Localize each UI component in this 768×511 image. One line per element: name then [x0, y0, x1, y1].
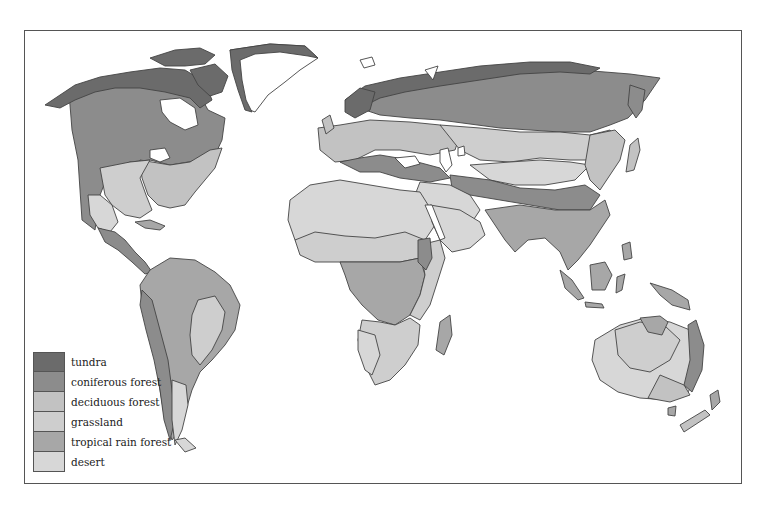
legend-label: tundra: [71, 356, 107, 368]
new-zealand-north: [710, 390, 720, 410]
tropical-rain-forest-swatch: [33, 432, 65, 452]
legend-item-deciduous-forest: deciduous forest: [33, 392, 171, 412]
legend-label: tropical rain forest: [71, 436, 171, 448]
south-america-grassland: [190, 296, 225, 365]
europe-deciduous: [318, 120, 460, 162]
legend-item-coniferous-forest: coniferous forest: [33, 372, 171, 392]
new-guinea: [650, 283, 690, 310]
tundra-swatch: [33, 352, 65, 372]
sumatra: [560, 270, 584, 300]
patagonia-desert: [175, 438, 196, 452]
legend-label: desert: [71, 456, 105, 468]
coniferous-forest-swatch: [33, 372, 65, 392]
legend-item-tundra: tundra: [33, 352, 171, 372]
sulawesi: [616, 274, 625, 293]
caribbean-islands: [135, 220, 165, 230]
madagascar: [436, 315, 452, 355]
borneo: [590, 262, 612, 290]
deciduous-forest-swatch: [33, 392, 65, 412]
desert-swatch: [33, 452, 65, 472]
grassland-swatch: [33, 412, 65, 432]
legend-item-tropical-rain-forest: tropical rain forest: [33, 432, 171, 452]
central-america-coniferous: [98, 228, 152, 274]
legend-item-desert: desert: [33, 452, 171, 472]
java: [585, 302, 604, 308]
arctic-islands-tundra: [150, 48, 215, 66]
legend-item-grassland: grassland: [33, 412, 171, 432]
south-asia-tropical: [485, 200, 610, 270]
tasmania: [668, 406, 676, 416]
new-zealand-south: [680, 410, 710, 432]
philippines: [622, 242, 632, 260]
aral-sea: [458, 146, 465, 156]
caspian-sea: [440, 148, 452, 172]
legend-label: grassland: [71, 416, 123, 428]
legend-label: deciduous forest: [71, 396, 160, 408]
south-america-desert-south: [172, 380, 188, 445]
mediterranean-coniferous: [340, 155, 450, 182]
japan: [626, 138, 640, 172]
svalbard: [360, 57, 375, 68]
map-legend: tundra coniferous forest deciduous fores…: [33, 352, 171, 472]
scandinavia-tundra: [345, 88, 375, 118]
legend-label: coniferous forest: [71, 376, 161, 388]
east-asia-deciduous: [585, 130, 625, 190]
